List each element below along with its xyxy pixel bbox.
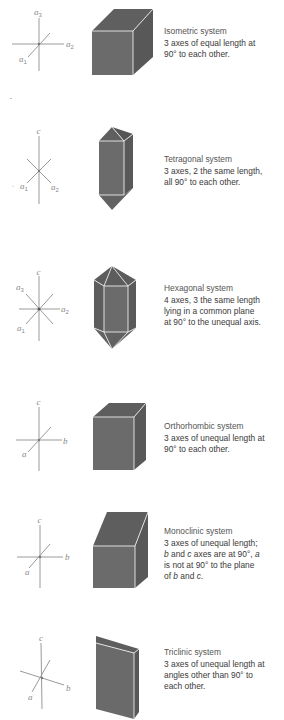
system-name: Orthorhombic system: [164, 421, 265, 432]
orthorhombic-prism-shape: [92, 402, 148, 472]
triclinic-prism-shape: [95, 635, 145, 720]
isometric-row: a3 a2 a1 Isometric system 3 axes of equa…: [0, 0, 284, 85]
system-name: Isometric system: [164, 26, 255, 37]
monoclinic-axes-diagram: c b a: [0, 500, 80, 595]
axis-label-b: b: [66, 683, 71, 693]
monoclinic-description: Monoclinic system 3 axes of unequal leng…: [164, 526, 260, 582]
monoclinic-line-3: is not at 90° to the plane: [164, 560, 260, 571]
orthorhombic-axes-diagram: c b a: [0, 390, 80, 480]
orthorhombic-description: Orthorhombic system 3 axes of unequal le…: [164, 421, 265, 455]
tetragonal-prism-shape: [97, 126, 137, 212]
monoclinic-line-1: 3 axes of unequal length;: [164, 538, 260, 549]
axis-label-b: b: [63, 436, 68, 446]
isometric-cube-shape: [90, 8, 156, 76]
monoclinic-line-2: b and c axes are at 90°, a: [164, 549, 260, 560]
system-name: Hexagonal system: [164, 283, 261, 294]
monoclinic-row: c b a Monoclinic system 3 axes of unequa…: [0, 500, 284, 610]
axis-label-a: a: [28, 692, 33, 702]
isometric-axes-diagram: a3 a2 a1: [0, 0, 80, 80]
hexagonal-prism-shape: [93, 265, 137, 351]
hexagonal-axes-diagram: c a3 a2 a1: [0, 250, 80, 350]
axis-label-b: b: [65, 552, 70, 562]
hexagonal-description: Hexagonal system 4 axes, 3 the same leng…: [164, 283, 261, 328]
axis-label-a2: a2: [51, 182, 60, 193]
monoclinic-prism-shape: [92, 511, 150, 589]
triclinic-axes-diagram: c b a: [0, 610, 80, 720]
axis-label-a: a: [22, 449, 27, 459]
system-name: Triclinic system: [164, 647, 265, 658]
axis-label-c: c: [37, 397, 41, 407]
orthorhombic-row: c b a Orthorhombic system 3 axes of uneq…: [0, 390, 284, 500]
tetragonal-axes-diagram: c a1 a2: [0, 120, 80, 220]
triclinic-description: Triclinic system 3 axes of unequal lengt…: [164, 647, 265, 692]
tetragonal-description: Tetragonal system 3 axes, 2 the same len…: [164, 154, 262, 188]
axis-label-c: c: [38, 515, 42, 525]
tetragonal-row: c a1 a2 Tetragonal system 3 axes, 2 the …: [0, 120, 284, 250]
triclinic-row: c b a Triclinic system 3 axes of unequal…: [0, 610, 284, 720]
axis-label-a2: a2: [66, 39, 75, 50]
monoclinic-line-4: of b and c.: [164, 571, 260, 582]
axis-label-a1: a1: [17, 323, 26, 334]
axis-label-a2: a2: [61, 304, 70, 315]
axis-label-a: a: [25, 567, 30, 577]
axis-label-c: c: [37, 267, 41, 277]
axis-label-a3: a3: [34, 7, 43, 18]
system-name: Monoclinic system: [164, 526, 260, 537]
hexagonal-row: c a3 a2 a1 Hexagonal system 4 axes, 3 th…: [0, 250, 284, 390]
print-speck: [10, 98, 12, 99]
axis-label-a3: a3: [16, 282, 25, 293]
axis-label-a1: a1: [19, 54, 28, 65]
isometric-description: Isometric system 3 axes of equal length …: [164, 26, 255, 60]
axis-label-c: c: [39, 633, 43, 643]
axis-label-c: c: [37, 126, 41, 136]
system-name: Tetragonal system: [164, 154, 262, 165]
